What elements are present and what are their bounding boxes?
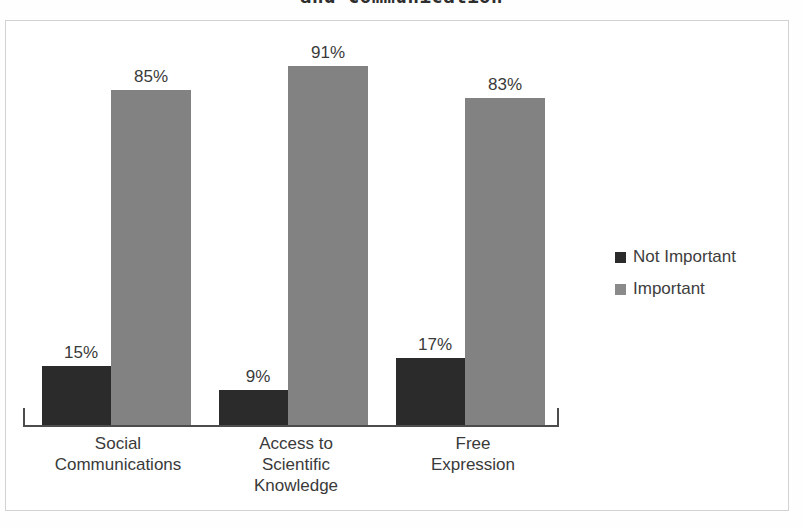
x-axis-label-access-to-scientific-knowledge: Access toScientificKnowledge (211, 433, 381, 496)
bar-value-label: 91% (288, 43, 368, 63)
x-axis-tick-right (557, 408, 559, 427)
legend-item-important[interactable]: Important (615, 273, 785, 305)
legend-item-not-important[interactable]: Not Important (615, 241, 785, 273)
x-axis-label-line: Access to (211, 433, 381, 454)
x-axis-label-line: Expression (388, 454, 558, 475)
x-axis-label-social-communications: SocialCommunications (33, 433, 203, 475)
page-title: and Communication (0, 0, 803, 7)
legend: Not Important Important (615, 241, 785, 305)
x-axis-label-line: Scientific (211, 454, 381, 475)
x-axis-label-line: Social (33, 433, 203, 454)
chart-title-clip: and Communication (0, 0, 803, 18)
bar-important-social-communications[interactable] (111, 90, 191, 425)
chart-page: and Communication 15% 85% 9% 91% 17% 83% (0, 0, 803, 528)
dark-square-icon (615, 252, 626, 263)
bar-value-label: 83% (465, 75, 545, 95)
bar-value-label: 85% (111, 67, 191, 87)
x-axis-tick-left (23, 408, 25, 427)
x-axis-label-line: Free (388, 433, 558, 454)
x-axis-label-line: Communications (33, 454, 203, 475)
gray-square-icon (615, 284, 626, 295)
bar-value-label: 9% (219, 367, 297, 387)
legend-item-label: Important (633, 279, 705, 299)
plot-area: 15% 85% 9% 91% 17% 83% (23, 26, 563, 427)
bar-important-free-expression[interactable] (465, 98, 545, 425)
bar-not-important-free-expression[interactable] (396, 358, 474, 425)
legend-item-label: Not Important (633, 247, 736, 267)
bar-value-label: 17% (396, 335, 474, 355)
bar-value-label: 15% (42, 343, 120, 363)
bar-not-important-social-communications[interactable] (42, 366, 120, 425)
x-axis-label-free-expression: FreeExpression (388, 433, 558, 475)
x-axis-baseline (23, 425, 559, 427)
bar-not-important-access-to-scientific-knowledge[interactable] (219, 390, 297, 425)
x-axis-label-line: Knowledge (211, 475, 381, 496)
chart-frame: 15% 85% 9% 91% 17% 83% SocialCommunicati… (5, 20, 789, 511)
bar-important-access-to-scientific-knowledge[interactable] (288, 66, 368, 425)
